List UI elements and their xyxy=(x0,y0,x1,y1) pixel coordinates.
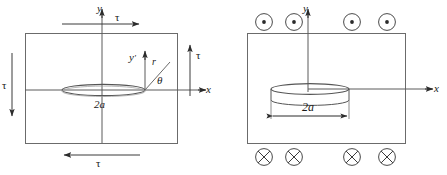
disk-dimension-label: 2a xyxy=(302,101,314,113)
out-of-page-marker xyxy=(344,14,361,31)
figure-root: y x y' r θ 2a τ τ τ τ xyxy=(0,0,447,175)
shear-label-right: τ xyxy=(196,50,200,61)
into-page-marker xyxy=(256,149,273,166)
into-page-marker xyxy=(379,149,396,166)
polar-radius-label: r xyxy=(152,57,156,67)
out-of-page-marker xyxy=(286,14,303,31)
right-panel-graphics xyxy=(223,0,447,175)
out-of-page-marker xyxy=(256,14,273,31)
polar-angle-label: θ xyxy=(157,75,162,86)
x-axis-label: x xyxy=(206,84,211,95)
crack-dimension-label: 2a xyxy=(94,99,105,110)
shear-label-left: τ xyxy=(2,80,6,91)
out-of-page-markers xyxy=(256,14,396,31)
y-axis-label: y xyxy=(303,3,308,14)
y-axis-label: y xyxy=(97,3,102,14)
into-page-marker xyxy=(344,149,361,166)
y-prime-mark: ' xyxy=(134,53,136,63)
into-page-markers xyxy=(256,149,396,166)
y-prime-axis-label: y' xyxy=(129,48,136,64)
shear-label-top: τ xyxy=(115,12,119,23)
penny-shaped-crack-lower-edge xyxy=(62,86,145,96)
shear-label-bottom: τ xyxy=(96,158,100,169)
left-panel-graphics xyxy=(0,0,224,175)
x-axis-label: x xyxy=(434,83,439,94)
into-page-marker xyxy=(286,149,303,166)
shear-loaded-crack-panel: y x y' r θ 2a τ τ τ τ xyxy=(0,0,224,175)
out-of-page-marker xyxy=(379,14,396,31)
antiplane-loaded-disk-panel: y x 2a xyxy=(223,0,447,175)
